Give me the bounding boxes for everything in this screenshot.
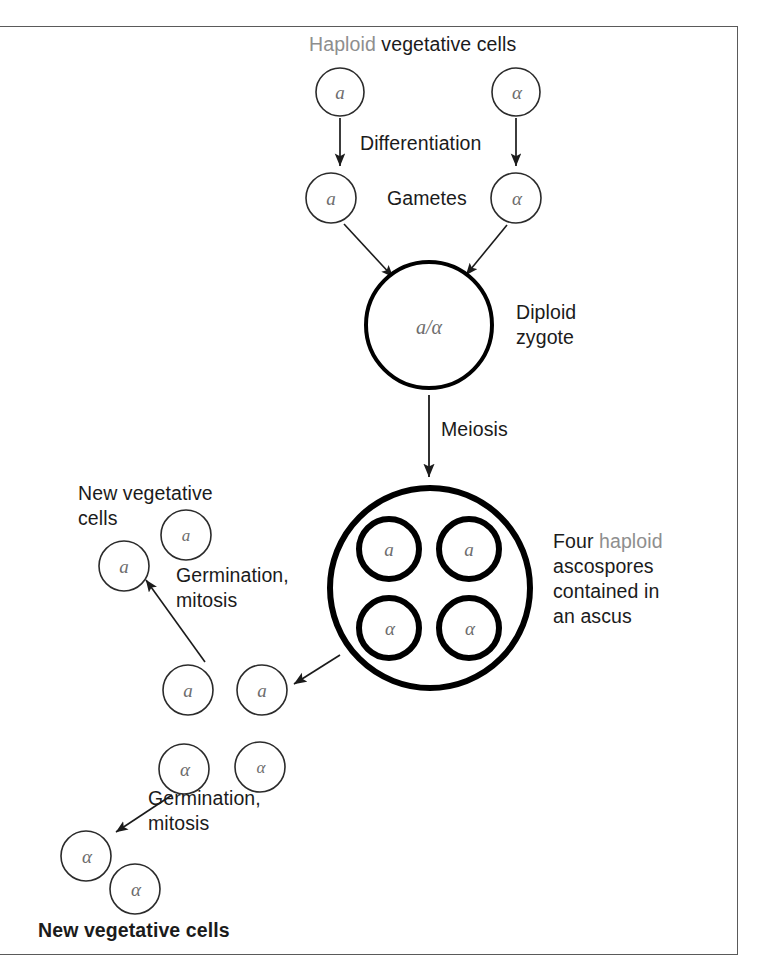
mark-new-vegetative-a-2: a bbox=[119, 556, 129, 578]
mark-vegetative-a: a bbox=[335, 82, 345, 104]
label-zygote: zygote bbox=[516, 325, 574, 350]
label-germination-a: Germination, bbox=[176, 563, 289, 588]
label-ascus-line2: ascospores bbox=[553, 554, 654, 579]
mark-new-vegetative-alpha-2: α bbox=[131, 879, 141, 901]
mark-germinating-a-2: a bbox=[257, 680, 267, 702]
title-word-vegetative-cells: vegetative cells bbox=[376, 33, 516, 55]
mark-ascospore-a-1: a bbox=[384, 539, 394, 561]
label-new-vegetative-line2: cells bbox=[78, 506, 118, 531]
ascus-word-four: Four bbox=[553, 530, 599, 552]
mark-ascospore-alpha-1: α bbox=[385, 618, 395, 640]
mark-germinating-alpha-2: α bbox=[257, 758, 266, 778]
label-ascus-line1: Four haploid bbox=[553, 529, 663, 554]
label-mitosis-a: mitosis bbox=[176, 588, 237, 613]
ascus-outline bbox=[330, 488, 530, 688]
mark-ascospore-a-2: a bbox=[464, 539, 474, 561]
label-new-vegetative-cells-bottom: New vegetative cells bbox=[38, 918, 230, 943]
mark-gamete-alpha: α bbox=[512, 188, 522, 210]
arrow-fusion-alpha bbox=[466, 225, 507, 275]
ascus-word-haploid: haploid bbox=[599, 530, 663, 552]
mark-gamete-a: a bbox=[326, 188, 336, 210]
label-mitosis-alpha: mitosis bbox=[148, 811, 209, 836]
diagram-canvas: a α a α a/α a a α α a a a a α α α α Hapl… bbox=[0, 0, 766, 975]
label-new-vegetative-line1: New vegetative bbox=[78, 481, 213, 506]
label-gametes: Gametes bbox=[387, 186, 467, 211]
arrow-ascus-release bbox=[294, 655, 340, 684]
label-germination-alpha: Germination, bbox=[148, 786, 261, 811]
mark-new-vegetative-alpha-1: α bbox=[82, 846, 92, 868]
arrow-fusion-a bbox=[344, 224, 393, 277]
label-differentiation: Differentiation bbox=[360, 131, 481, 156]
mark-vegetative-alpha: α bbox=[512, 82, 522, 104]
mark-germinating-a-1: a bbox=[183, 680, 193, 702]
label-meiosis: Meiosis bbox=[441, 417, 508, 442]
label-ascus-line3: contained in bbox=[553, 579, 659, 604]
mark-ascospore-alpha-2: α bbox=[465, 618, 475, 640]
mark-new-vegetative-a-1: a bbox=[182, 526, 191, 546]
mark-zygote: a/α bbox=[416, 316, 442, 339]
title-word-haploid: Haploid bbox=[309, 33, 376, 55]
label-diploid: Diploid bbox=[516, 300, 576, 325]
title-haploid-vegetative-cells: Haploid vegetative cells bbox=[309, 32, 516, 57]
label-ascus-line4: an ascus bbox=[553, 604, 632, 629]
mark-germinating-alpha-1: α bbox=[180, 759, 190, 781]
